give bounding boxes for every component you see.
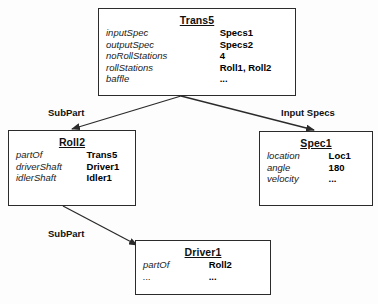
node-trans5[interactable]: Trans5 inputSpec Specs1 outputSpec Specs… [98, 8, 296, 96]
attribute-value: ... [220, 73, 295, 85]
attribute-row: idlerShaft Idler1 [9, 172, 135, 184]
diagram-canvas: SubPart Input Specs SubPart Trans5 input… [0, 0, 378, 304]
edge-label-input-specs: Input Specs [281, 107, 335, 118]
attribute-name: velocity [260, 173, 329, 185]
attribute-row: ... ... [136, 271, 270, 283]
node-driver1[interactable]: Driver1 partOf Roll2 ... ... [135, 240, 271, 295]
edge-subpart-1-line [72, 96, 181, 129]
attribute-name: noRollStations [99, 50, 220, 62]
attribute-row: noRollStations 4 [99, 50, 295, 62]
attribute-value: Driver1 [87, 161, 135, 173]
edge-label-subpart-2: SubPart [48, 228, 84, 239]
attribute-name: partOf [9, 149, 87, 161]
attribute-name: angle [260, 162, 329, 174]
attribute-name: location [260, 150, 329, 162]
node-roll2[interactable]: Roll2 partOf Trans5 driverShaft Driver1 … [8, 130, 136, 206]
edge-subpart-2-line [63, 206, 137, 245]
attribute-value: Specs1 [220, 27, 295, 39]
attribute-row: partOf Roll2 [136, 259, 270, 271]
attribute-value: Loc1 [329, 150, 372, 162]
node-roll2-title: Roll2 [9, 136, 135, 148]
node-trans5-title: Trans5 [99, 14, 295, 26]
attribute-row: baffle ... [99, 73, 295, 85]
attribute-name: ... [136, 271, 209, 283]
attribute-name: partOf [136, 259, 209, 271]
node-trans5-attributes: inputSpec Specs1 outputSpec Specs2 noRol… [99, 27, 295, 85]
attribute-value: 4 [220, 50, 295, 62]
attribute-value: ... [329, 173, 372, 185]
attribute-row: outputSpec Specs2 [99, 39, 295, 51]
node-spec1-title: Spec1 [260, 137, 372, 149]
attribute-value: Roll2 [209, 259, 270, 271]
attribute-value: ... [209, 271, 270, 283]
attribute-row: driverShaft Driver1 [9, 161, 135, 173]
node-roll2-attributes: partOf Trans5 driverShaft Driver1 idlerS… [9, 149, 135, 184]
attribute-value: Specs2 [220, 39, 295, 51]
attribute-name: rollStations [99, 62, 220, 74]
attribute-value: Roll1, Roll2 [220, 62, 295, 74]
attribute-row: angle 180 [260, 162, 372, 174]
node-spec1-attributes: location Loc1 angle 180 velocity ... [260, 150, 372, 185]
attribute-value: Trans5 [87, 149, 135, 161]
attribute-value: 180 [329, 162, 372, 174]
attribute-name: driverShaft [9, 161, 87, 173]
attribute-name: idlerShaft [9, 172, 87, 184]
attribute-row: partOf Trans5 [9, 149, 135, 161]
node-spec1[interactable]: Spec1 location Loc1 angle 180 velocity .… [259, 131, 373, 206]
attribute-value: Idler1 [87, 172, 135, 184]
attribute-name: baffle [99, 73, 220, 85]
edge-label-subpart-1: SubPart [48, 107, 84, 118]
attribute-row: inputSpec Specs1 [99, 27, 295, 39]
attribute-row: location Loc1 [260, 150, 372, 162]
attribute-row: velocity ... [260, 173, 372, 185]
attribute-name: inputSpec [99, 27, 220, 39]
attribute-row: rollStations Roll1, Roll2 [99, 62, 295, 74]
node-driver1-title: Driver1 [136, 246, 270, 258]
node-driver1-attributes: partOf Roll2 ... ... [136, 259, 270, 282]
attribute-name: outputSpec [99, 39, 220, 51]
